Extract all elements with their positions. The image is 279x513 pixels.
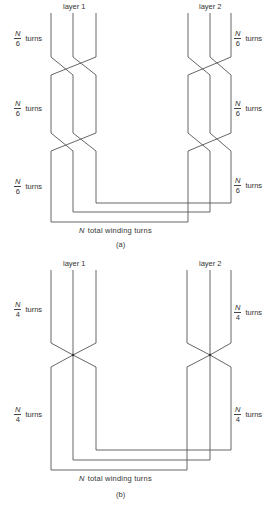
layer1-wire-a3: [51, 13, 231, 212]
layer1-label-b: layer 1: [63, 260, 86, 268]
layer-wire-b2: [73, 270, 210, 460]
layer-wire-b3: [51, 270, 231, 470]
section-label-b-left-2: N4 turns: [14, 406, 42, 423]
section-label-a-left-3: N6 turns: [14, 178, 42, 195]
caption-a: (a): [116, 240, 125, 249]
winding-diagram: [0, 0, 279, 513]
crossing-dot-left: [72, 354, 74, 356]
layer1-wire-a1: [51, 13, 231, 203]
layer-wire-b1: [51, 270, 231, 450]
section-label-b-right-2: N4 turns: [234, 406, 262, 423]
section-label-a-right-1: N6 turns: [234, 30, 262, 47]
layer1-wire-a2: [51, 13, 231, 222]
layer2-label-a: layer 2: [199, 3, 222, 11]
crossing-dot-right: [209, 354, 211, 356]
section-label-b-right-1: N4 turns: [234, 304, 262, 321]
section-label-a-right-2: N6 turns: [234, 100, 262, 117]
caption-b: (b): [116, 490, 125, 499]
section-label-a-left-1: N6 turns: [14, 30, 42, 47]
total-turns-label-a: Ntotal winding turns: [79, 226, 152, 235]
section-label-a-left-2: N6 turns: [14, 100, 42, 117]
figure-b-wires: [51, 270, 231, 470]
section-label-a-right-3: N6 turns: [234, 177, 262, 194]
total-turns-label-b: Ntotal winding turns: [79, 474, 152, 483]
figure-a-wires: [51, 13, 231, 222]
layer2-label-b: layer 2: [199, 260, 222, 268]
section-label-b-left-1: N4 turns: [14, 301, 42, 318]
layer1-label-a: layer 1: [63, 3, 86, 11]
